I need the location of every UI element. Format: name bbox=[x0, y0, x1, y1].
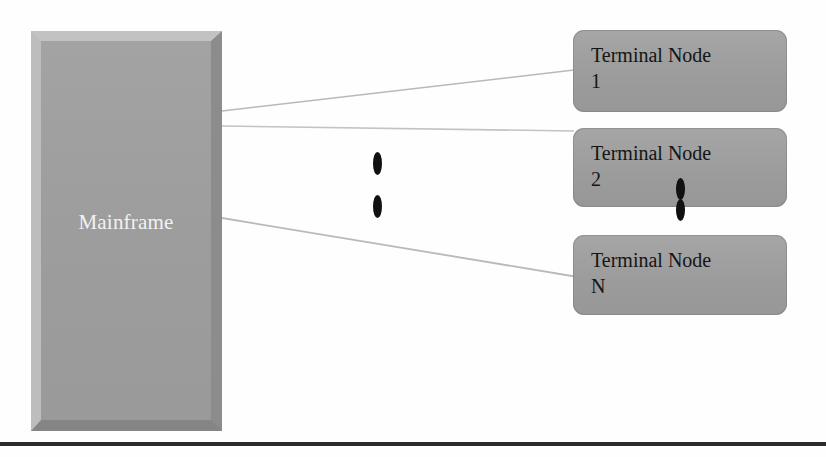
ellipsis-dot-icon bbox=[373, 152, 382, 175]
ellipsis-dot-icon bbox=[676, 178, 685, 200]
ellipsis-dot-icon bbox=[676, 199, 685, 221]
terminal-node-2-label: Terminal Node 2 bbox=[591, 140, 787, 193]
connector-line-node-1 bbox=[222, 70, 574, 111]
ellipsis-dot-icon bbox=[373, 195, 382, 218]
mainframe-box[interactable]: Mainframe bbox=[31, 31, 222, 431]
terminal-node-1-label: Terminal Node 1 bbox=[591, 42, 787, 95]
connector-line-node-2 bbox=[222, 126, 574, 131]
terminal-node-n-label: Terminal Node N bbox=[591, 247, 787, 300]
terminal-node-n[interactable]: Terminal Node N bbox=[573, 235, 787, 315]
diagram-canvas: Mainframe Terminal Node 1 Terminal Node … bbox=[0, 0, 826, 457]
mainframe-label: Mainframe bbox=[78, 212, 173, 233]
connector-line-node-n bbox=[222, 218, 578, 277]
mainframe-face: Mainframe bbox=[41, 41, 211, 420]
terminal-node-1[interactable]: Terminal Node 1 bbox=[573, 30, 787, 112]
bottom-divider bbox=[0, 442, 826, 446]
